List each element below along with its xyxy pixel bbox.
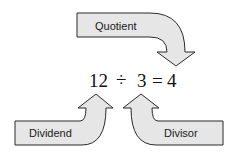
- equation-equals: =: [152, 70, 163, 91]
- equation-operator: ÷: [116, 69, 126, 90]
- equation-divisor: 3: [137, 70, 147, 91]
- division-diagram: Quotient 12 ÷ 3 = 4 Dividend Divisor: [0, 0, 238, 158]
- equation: 12 ÷ 3 = 4: [89, 69, 177, 91]
- divisor-arrow: Divisor: [123, 94, 223, 145]
- quotient-arrow: Quotient: [77, 13, 195, 66]
- dividend-label: Dividend: [29, 127, 72, 139]
- equation-quotient: 4: [167, 70, 177, 91]
- quotient-label: Quotient: [95, 20, 137, 32]
- equation-dividend: 12: [89, 70, 108, 91]
- dividend-arrow: Dividend: [15, 94, 113, 145]
- divisor-label: Divisor: [164, 127, 198, 139]
